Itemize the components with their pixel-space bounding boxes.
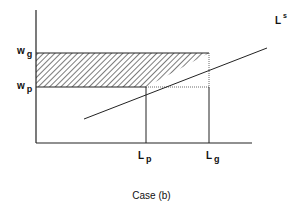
diagram: wg wp Lp Lg Ls Case (b) <box>0 0 303 209</box>
wg-label: wg <box>17 45 32 56</box>
supply-label: Ls <box>275 15 287 26</box>
surplus-region <box>36 53 209 87</box>
lg-label: Lg <box>206 150 220 161</box>
caption: Case (b) <box>0 190 303 201</box>
wp-label: wp <box>17 80 32 91</box>
lp-label: Lp <box>138 150 152 161</box>
diagram-graphic <box>0 0 303 209</box>
